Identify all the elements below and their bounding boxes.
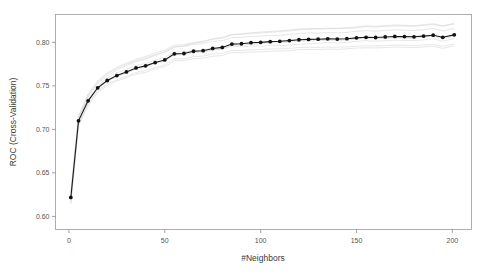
- data-point-marker: [431, 33, 435, 37]
- data-point-marker: [316, 37, 320, 41]
- data-point-marker: [452, 33, 456, 37]
- data-point-marker: [115, 74, 119, 78]
- data-point-marker: [268, 40, 272, 44]
- data-point-marker: [201, 49, 205, 53]
- x-tick-label: 0: [67, 237, 71, 244]
- data-point-marker: [182, 52, 186, 56]
- data-point-marker: [153, 61, 157, 65]
- x-axis-title: #Neighbors: [241, 253, 284, 263]
- data-point-marker: [211, 47, 215, 51]
- data-point-marker: [355, 36, 359, 40]
- data-point-marker: [259, 40, 263, 44]
- data-point-marker: [383, 35, 387, 39]
- data-point-marker: [249, 41, 253, 45]
- x-tick-label: 150: [351, 237, 363, 244]
- data-point-marker: [287, 39, 291, 43]
- y-tick-label: 0.80: [36, 39, 50, 46]
- data-point-marker: [134, 66, 138, 70]
- y-tick-label: 0.75: [36, 82, 50, 89]
- data-point-marker: [335, 37, 339, 41]
- data-point-marker: [441, 35, 445, 39]
- y-axis-title: ROC (Cross-Validation): [8, 78, 18, 167]
- data-point-marker: [230, 42, 234, 46]
- x-tick-label: 50: [161, 237, 169, 244]
- data-point-marker: [422, 34, 426, 38]
- data-point-marker: [240, 42, 244, 46]
- data-point-marker: [172, 52, 176, 56]
- data-point-marker: [345, 37, 349, 41]
- data-point-marker: [86, 99, 90, 103]
- data-point-marker: [412, 35, 416, 39]
- data-point-marker: [144, 64, 148, 68]
- y-tick-label: 0.60: [36, 213, 50, 220]
- data-point-marker: [125, 70, 129, 74]
- data-point-marker: [163, 58, 167, 62]
- data-point-marker: [297, 38, 301, 42]
- data-point-marker: [69, 196, 73, 200]
- data-point-marker: [220, 46, 224, 50]
- y-tick-label: 0.70: [36, 126, 50, 133]
- roc-neighbors-chart-figure: 050100150200 0.600.650.700.750.80 #Neigh…: [0, 0, 492, 274]
- data-point-marker: [77, 119, 81, 123]
- data-point-marker: [374, 36, 378, 40]
- x-tick-label: 100: [255, 237, 267, 244]
- data-point-marker: [278, 39, 282, 43]
- data-point-marker: [326, 37, 330, 41]
- data-point-marker: [96, 86, 100, 90]
- chart-plot-area: 050100150200 0.600.650.700.750.80 #Neigh…: [0, 0, 492, 274]
- y-tick-label: 0.65: [36, 169, 50, 176]
- data-point-marker: [192, 49, 196, 53]
- data-point-marker: [105, 79, 109, 83]
- data-point-marker: [364, 35, 368, 39]
- data-point-marker: [307, 37, 311, 41]
- data-point-marker: [393, 35, 397, 39]
- data-point-marker: [403, 35, 407, 39]
- x-tick-label: 200: [446, 237, 458, 244]
- figure-background: [0, 0, 492, 274]
